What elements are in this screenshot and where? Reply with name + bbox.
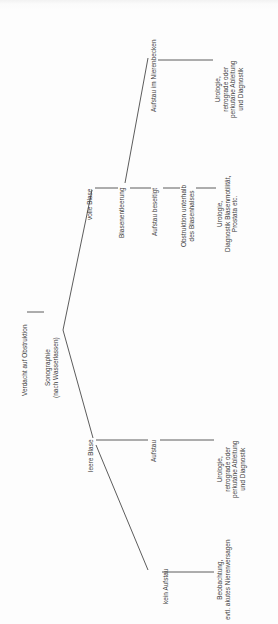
node-blasenentleerung: Blasenentleerung bbox=[118, 187, 125, 238]
node-urologie-retrograde-mid: Urologie, retrograde oder perkutane Able… bbox=[216, 441, 246, 498]
node-aufstau: Aufstau bbox=[150, 440, 157, 462]
node-volle-blase: volle Blase bbox=[86, 189, 93, 220]
node-aufstau-im-nierenbecken: Aufstau im Nierenbecken bbox=[150, 39, 157, 112]
node-kein-aufstau: kein Aufstau bbox=[162, 569, 169, 604]
node-aufstau-beseitigt: Aufstau beseitigt bbox=[151, 188, 158, 236]
edge-sono-leere-blase bbox=[63, 330, 93, 438]
edge-leere-blase-kein-aufstau bbox=[96, 445, 148, 570]
node-sonographie: Sonographie (nach Wasserlassen) bbox=[44, 337, 59, 398]
edge-blasenentleerung-aufstau-nierenbecken bbox=[125, 58, 148, 183]
node-obstruktion-unterhalb-blasenhals: Obstruktion unterhalb des Blasenhalses bbox=[180, 185, 195, 247]
node-leere-blase: leere Blase bbox=[87, 439, 94, 472]
node-beobachtung: Beobachtung, evtl. akutes Nierenversagen bbox=[216, 539, 231, 620]
node-urologie-blasenmotilitaet: Urologie, Diagnostik Blasenmotilität, Pr… bbox=[216, 176, 239, 252]
node-root: Verdacht auf Obstruktion bbox=[21, 324, 28, 396]
node-urologie-retrograde-top: Urologie, retrograde oder perkutane Able… bbox=[214, 61, 244, 118]
